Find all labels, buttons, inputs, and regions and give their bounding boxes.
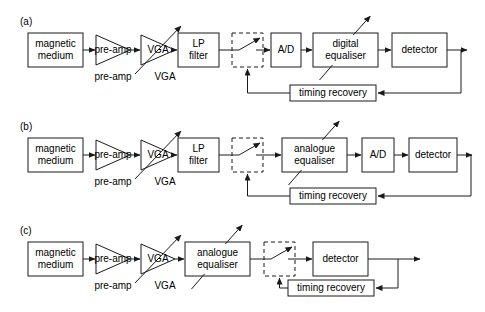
timing-to-sampler-feedback: [248, 69, 291, 93]
vga-label: VGA: [154, 71, 175, 82]
block-source: magneticmedium: [28, 242, 83, 276]
timing-label: timing recovery: [299, 87, 367, 98]
block-vga: VGA: [135, 131, 181, 179]
equaliser-label-line2: equaliser: [197, 259, 238, 270]
vga-label: VGA: [147, 149, 168, 160]
block-timing: timing recovery: [290, 188, 376, 204]
vga-label: VGA: [154, 176, 175, 187]
equaliser-adapt-up-arrow: [353, 16, 370, 35]
source-label-line1: magnetic: [35, 38, 76, 49]
lpfilter-label-line2: filter: [189, 50, 209, 61]
block-detector: detector: [409, 138, 457, 172]
source-label-line1: magnetic: [35, 247, 76, 258]
source-label-line2: medium: [38, 50, 74, 61]
block-source: magneticmedium: [28, 33, 83, 67]
source-label-line1: magnetic: [35, 143, 76, 154]
block-vga: VGA: [135, 26, 181, 74]
detector-label: detector: [415, 149, 452, 160]
preamp-label: pre-amp: [94, 71, 132, 82]
panel-a-side-labels: pre-ampVGA: [94, 71, 176, 82]
timing-to-sampler-feedback: [280, 278, 289, 288]
source-label-line2: medium: [38, 155, 74, 166]
preamp-label: pre-amp: [94, 253, 132, 264]
equaliser-adapt-up-arrow: [225, 225, 242, 244]
adc-label: A/D: [278, 44, 295, 55]
block-preamp: pre-amp: [94, 244, 132, 274]
equaliser-label-line2: equaliser: [325, 50, 366, 61]
block-source: magneticmedium: [28, 138, 83, 172]
panel-b: magneticmediumpre-ampVGALPfilteranalogue…: [28, 121, 472, 204]
timing-to-sampler-feedback: [248, 174, 291, 196]
block-preamp: pre-amp: [94, 35, 132, 65]
panel-b-side-labels: pre-ampVGA: [94, 176, 176, 187]
block-lpfilter: LPfilter: [178, 33, 219, 67]
block-equaliser: analogueequaliser: [282, 121, 347, 185]
block-adc: A/D: [362, 138, 394, 172]
panel-c-side-labels: pre-ampVGA: [94, 280, 176, 291]
block-adc: A/D: [271, 33, 301, 67]
equaliser-label-line1: analogue: [294, 143, 336, 154]
vga-label: VGA: [147, 253, 168, 264]
read-channel-block-diagram: magneticmediumpre-ampVGALPfilterA/Ddigit…: [0, 0, 485, 312]
equaliser-label-line2: equaliser: [294, 155, 335, 166]
adc-label: A/D: [370, 149, 387, 160]
block-detector: detector: [392, 33, 447, 67]
block-vga: VGA: [135, 235, 181, 283]
equaliser-adapt-up-arrow: [322, 121, 339, 140]
panel-a: magneticmediumpre-ampVGALPfilterA/Ddigit…: [28, 16, 467, 101]
block-equaliser: digitalequaliser: [313, 16, 378, 80]
block-timing: timing recovery: [290, 85, 376, 101]
lpfilter-label-line2: filter: [189, 155, 209, 166]
preamp-label: pre-amp: [94, 149, 132, 160]
equaliser-label-line1: analogue: [197, 247, 239, 258]
figure-root: magneticmediumpre-ampVGALPfilterA/Ddigit…: [0, 0, 485, 312]
vga-label: VGA: [154, 280, 175, 291]
equaliser-label-line1: digital: [332, 38, 358, 49]
block-preamp: pre-amp: [94, 140, 132, 170]
lpfilter-label-line1: LP: [192, 143, 205, 154]
block-lpfilter: LPfilter: [178, 138, 219, 172]
preamp-label: pre-amp: [94, 280, 132, 291]
preamp-label: pre-amp: [94, 44, 132, 55]
source-label-line2: medium: [38, 259, 74, 270]
block-equaliser: analogueequaliser: [185, 225, 250, 289]
block-timing: timing recovery: [288, 280, 374, 296]
block-sampler: [232, 33, 263, 67]
detector-to-timing-feedback: [376, 259, 398, 288]
lpfilter-label-line1: LP: [192, 38, 205, 49]
block-detector: detector: [313, 242, 368, 276]
vga-label: VGA: [147, 44, 168, 55]
detector-label: detector: [322, 253, 359, 264]
preamp-label: pre-amp: [94, 176, 132, 187]
timing-label: timing recovery: [299, 190, 367, 201]
panel-label-b: (b): [20, 121, 32, 132]
block-sampler: [264, 242, 295, 276]
detector-label: detector: [401, 44, 438, 55]
panel-label-a: (a): [20, 16, 32, 27]
timing-label: timing recovery: [297, 282, 365, 293]
block-sampler: [232, 138, 263, 172]
panel-c: magneticmediumpre-ampVGAanalogueequalise…: [28, 225, 420, 296]
panel-label-c: (c): [20, 225, 32, 236]
